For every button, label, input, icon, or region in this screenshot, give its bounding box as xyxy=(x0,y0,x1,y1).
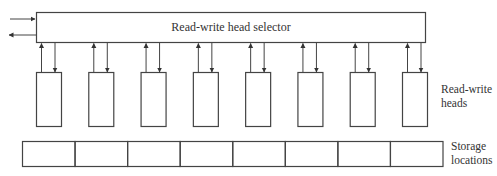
head-8 xyxy=(403,43,428,127)
read-write-head-selector: Read-write head selector xyxy=(37,13,426,43)
storage-locations xyxy=(23,142,444,167)
storage-label-line1: Storage xyxy=(451,140,486,153)
head-6 xyxy=(298,43,323,127)
head-5 xyxy=(246,43,271,127)
heads-label-line2: heads xyxy=(441,97,468,109)
head-box xyxy=(298,73,323,127)
read-write-heads xyxy=(37,43,428,127)
storage-cell-3 xyxy=(128,142,181,167)
storage-cell-4 xyxy=(180,142,233,167)
head-3 xyxy=(141,43,166,127)
head-box xyxy=(246,73,271,127)
storage-cell-8 xyxy=(390,142,443,167)
storage-label-line2: locations xyxy=(451,154,493,166)
head-box xyxy=(89,73,114,127)
storage-cell-7 xyxy=(338,142,391,167)
head-box xyxy=(141,73,166,127)
head-box xyxy=(403,73,428,127)
head-4 xyxy=(193,43,218,127)
selector-label: Read-write head selector xyxy=(171,20,290,34)
head-1 xyxy=(37,43,62,127)
head-box xyxy=(193,73,218,127)
head-2 xyxy=(89,43,114,127)
head-box xyxy=(350,73,375,127)
storage-cell-1 xyxy=(23,142,76,167)
head-7 xyxy=(350,43,375,127)
storage-cell-2 xyxy=(75,142,128,167)
diagram-canvas: Read-write head selector Read-write head… xyxy=(0,0,497,176)
heads-label-line1: Read-write xyxy=(441,83,492,95)
head-box xyxy=(37,73,62,127)
storage-cell-5 xyxy=(233,142,286,167)
storage-cell-6 xyxy=(285,142,338,167)
